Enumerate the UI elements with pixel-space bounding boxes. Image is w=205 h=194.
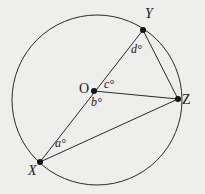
angle-label-c: c° — [104, 78, 114, 90]
point-z-dot — [175, 96, 181, 102]
point-x-dot — [37, 159, 43, 165]
point-label-o: O — [79, 82, 89, 96]
segment-yz — [143, 30, 178, 99]
angle-label-d: d° — [131, 43, 142, 55]
point-label-y: Y — [145, 7, 153, 21]
angle-label-a: a° — [55, 137, 66, 149]
angle-label-b: b° — [91, 96, 102, 108]
segment-xz — [40, 99, 178, 162]
segment-oz — [94, 91, 178, 99]
point-o-dot — [91, 88, 97, 94]
point-label-x: X — [28, 164, 37, 178]
point-label-z: Z — [182, 93, 191, 107]
point-y-dot — [140, 27, 146, 33]
